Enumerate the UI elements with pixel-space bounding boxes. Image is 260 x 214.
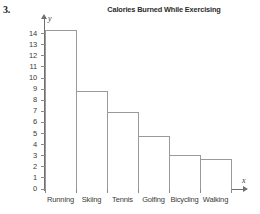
y-tick-label: 11 [17,62,37,71]
x-label-walking: Walking [193,195,238,204]
bar-running [45,30,77,191]
x-tick-mark [107,189,108,193]
y-tick-label: 7 [17,106,37,115]
x-tick-mark [45,189,46,193]
y-tick-label: 2 [17,162,37,171]
exercise-bar-chart-figure: 3. Calories Burned While Exercising y x … [0,0,260,214]
x-tick-mark [169,189,170,193]
y-tick-label: 1 [17,173,37,182]
y-tick-label: 10 [17,73,37,82]
chart-title: Calories Burned While Exercising [81,5,247,14]
y-tick-label: 9 [17,84,37,93]
bar-series [45,18,230,190]
bar-bicycling [169,155,201,191]
x-axis-symbol: x [242,176,246,185]
bar-tennis [107,112,139,191]
y-tick-label: 13 [17,40,37,49]
y-tick-label: 0 [17,184,37,193]
x-tick-mark [231,189,232,193]
bar-walking [200,159,232,191]
y-tick-label: 3 [17,151,37,160]
y-tick-label: 14 [17,29,37,38]
x-tick-mark [76,189,77,193]
y-tick-label: 12 [17,51,37,60]
y-tick-label: 4 [17,140,37,149]
y-tick-label: 6 [17,117,37,126]
x-axis-arrow-icon [243,186,248,192]
x-tick-mark [138,189,139,193]
y-tick-label: 8 [17,95,37,104]
problem-number: 3. [3,4,10,15]
bar-skiing [76,91,108,191]
bar-golfing [138,136,170,192]
y-tick-label: 5 [17,129,37,138]
x-tick-mark [200,189,201,193]
